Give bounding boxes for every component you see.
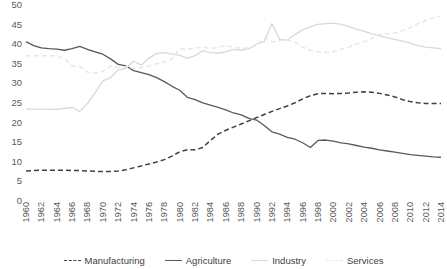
legend-item-agriculture[interactable]: Agriculture	[165, 255, 231, 266]
plot-area	[26, 4, 441, 204]
x-tick-label: 1976	[144, 202, 154, 222]
y-tick-label: 20	[0, 116, 22, 127]
legend-swatch-industry	[251, 260, 268, 261]
x-tick-label: 1972	[113, 202, 123, 222]
x-tick-label: 1986	[221, 202, 231, 222]
y-tick-label: 25	[0, 97, 22, 108]
series-line-services	[26, 16, 441, 73]
x-tick-label: 1978	[159, 202, 169, 222]
x-tick-label: 1960	[21, 202, 31, 222]
y-axis: 05101520253035404550	[0, 0, 22, 269]
legend-swatch-services	[326, 260, 343, 261]
x-tick-label: 2014	[436, 202, 446, 222]
x-tick-label: 1990	[252, 202, 262, 222]
x-tick-label: 2008	[390, 202, 400, 222]
y-tick-label: 50	[0, 0, 22, 10]
series-line-industry	[26, 23, 441, 111]
x-tick-label: 1982	[190, 202, 200, 222]
legend-label: Manufacturing	[85, 255, 145, 266]
y-tick-label: 10	[0, 155, 22, 166]
x-tick-label: 1970	[98, 202, 108, 222]
x-tick-label: 1968	[82, 202, 92, 222]
x-tick-label: 1998	[313, 202, 323, 222]
x-tick-label: 1996	[298, 202, 308, 222]
x-tick-label: 2004	[359, 202, 369, 222]
x-tick-label: 1974	[129, 202, 139, 222]
legend-label: Industry	[272, 255, 306, 266]
x-tick-label: 2010	[405, 202, 415, 222]
chart-legend: ManufacturingAgricultureIndustryServices	[0, 255, 447, 266]
y-tick-label: 45	[0, 18, 22, 29]
x-tick-label: 2002	[344, 202, 354, 222]
x-tick-label: 1988	[236, 202, 246, 222]
x-tick-label: 2006	[375, 202, 385, 222]
x-tick-label: 1964	[52, 202, 62, 222]
x-tick-label: 1962	[36, 202, 46, 222]
x-tick-label: 1984	[205, 202, 215, 222]
legend-item-industry[interactable]: Industry	[251, 255, 306, 266]
series-line-agriculture	[26, 42, 441, 158]
series-line-manufacturing	[26, 92, 441, 172]
legend-swatch-agriculture	[165, 260, 182, 261]
x-tick-label: 1992	[267, 202, 277, 222]
legend-label: Services	[347, 255, 383, 266]
y-tick-label: 5	[0, 175, 22, 186]
y-tick-label: 0	[0, 195, 22, 206]
x-tick-label: 1980	[175, 202, 185, 222]
chart-container: 05101520253035404550 1960196219641966196…	[0, 0, 447, 269]
x-tick-label: 1966	[67, 202, 77, 222]
x-axis: 1960196219641966196819701972197419761978…	[26, 200, 441, 245]
legend-item-manufacturing[interactable]: Manufacturing	[64, 255, 145, 266]
legend-item-services[interactable]: Services	[326, 255, 383, 266]
y-tick-label: 35	[0, 57, 22, 68]
x-tick-label: 2000	[328, 202, 338, 222]
y-tick-label: 30	[0, 77, 22, 88]
legend-label: Agriculture	[186, 255, 231, 266]
y-tick-label: 15	[0, 136, 22, 147]
x-tick-label: 1994	[282, 202, 292, 222]
y-tick-label: 40	[0, 38, 22, 49]
x-tick-label: 2012	[421, 202, 431, 222]
legend-swatch-manufacturing	[64, 260, 81, 261]
